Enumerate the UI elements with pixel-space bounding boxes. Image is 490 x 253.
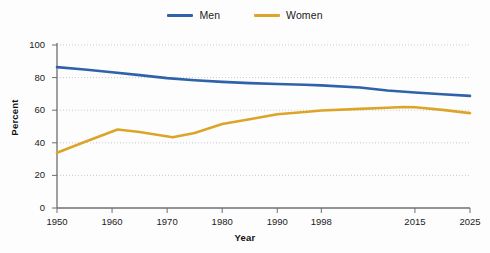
y-tick-label: 0 [19,203,45,213]
y-tick-label: 100 [19,40,45,50]
line-chart: Men Women Percent Year 02040608010019501… [0,0,490,253]
x-tick-label: 1950 [37,217,77,227]
x-tick-label: 1970 [147,217,187,227]
y-tick-label: 40 [19,138,45,148]
x-tick-label: 1998 [301,217,341,227]
plot-area: Percent Year 020406080100195019601970198… [0,0,490,253]
x-tick-label: 1990 [257,217,297,227]
y-tick-label: 60 [19,105,45,115]
gridlines [57,45,470,175]
axis-lines [57,43,470,208]
y-tick-label: 80 [19,73,45,83]
x-axis-title: Year [0,232,490,243]
x-tick-label: 2015 [395,217,435,227]
x-tick-label: 2025 [450,217,490,227]
axis-ticks [52,45,470,213]
y-axis-title: Percent [9,88,20,148]
x-tick-label: 1960 [92,217,132,227]
y-tick-label: 20 [19,170,45,180]
x-tick-label: 1980 [202,217,242,227]
